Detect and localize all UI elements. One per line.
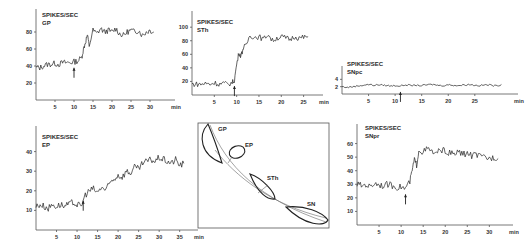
y-tick-label: 30 (26, 168, 32, 174)
y-tick-label: 4 (335, 76, 339, 82)
y-tick-label: 40 (26, 149, 32, 155)
units-label: SPIKES/SEC (42, 12, 79, 18)
y-tick-label: 2 (335, 84, 338, 90)
y-tick-label: 20 (182, 78, 188, 84)
firing-rate-trace (36, 155, 184, 211)
y-tick-label: 30 (347, 181, 353, 187)
x-tick-label: 25 (472, 98, 478, 104)
units-label: SPIKES/SEC (365, 125, 402, 131)
anatomy-diagram: GP EP STh SN (198, 123, 329, 228)
x-tick-label: 15 (95, 234, 101, 240)
x-unit-label: min (319, 99, 329, 105)
ep-nucleus (227, 144, 246, 161)
x-unit-label: min (514, 98, 524, 104)
arrow-head-icon (233, 86, 236, 89)
x-tick-label: 30 (156, 234, 162, 240)
x-tick-label: 10 (234, 99, 240, 105)
region-label: EP (42, 142, 50, 148)
x-tick-label: 15 (420, 229, 426, 235)
chart-panel-sn_lower: SPIKES/SECSNpr10203040506051015202530min (347, 124, 520, 235)
x-tick-label: 15 (419, 98, 425, 104)
y-tick-label: 50 (347, 154, 353, 160)
y-tick-label: 60 (347, 141, 353, 147)
x-tick-label: 15 (256, 99, 262, 105)
y-tick-label: 40 (26, 63, 32, 69)
region-label: STh (197, 27, 209, 33)
chart-panel-gp: SPIKES/SECGP2040608051015202530min (26, 9, 182, 110)
chart-panel-sn_upper: SPIKES/SECSNpc24510152025min (335, 61, 524, 104)
x-tick-label: 10 (74, 234, 80, 240)
x-tick-label: 20 (442, 229, 448, 235)
units-label: SPIKES/SEC (347, 61, 384, 67)
x-tick-label: 35 (177, 234, 183, 240)
firing-rate-trace (342, 84, 501, 88)
arrow-head-icon (404, 194, 407, 197)
units-label: SPIKES/SEC (42, 134, 79, 140)
x-unit-label: min (171, 104, 181, 110)
x-tick-label: 25 (464, 229, 470, 235)
figure-canvas: SPIKES/SECGP2040608051015202530minSPIKES… (0, 0, 531, 250)
x-tick-label: 20 (109, 104, 115, 110)
diagram-frame (198, 123, 329, 228)
sth-label: STh (267, 175, 279, 181)
x-tick-label: 20 (115, 234, 121, 240)
fiber-path-2 (215, 150, 326, 218)
sn-label: SN (307, 201, 315, 207)
x-tick-label: 5 (213, 99, 216, 105)
x-tick-label: 20 (278, 99, 284, 105)
y-tick-label: 10 (347, 208, 353, 214)
x-tick-label: 25 (301, 99, 307, 105)
x-unit-label: min (194, 234, 204, 240)
y-tick-label: 80 (26, 29, 32, 35)
y-tick-label: 40 (182, 65, 188, 71)
x-tick-label: 15 (90, 104, 96, 110)
region-label: GP (42, 20, 51, 26)
x-tick-label: 20 (445, 98, 451, 104)
sn-nucleus (286, 207, 328, 224)
y-tick-label: 100 (179, 24, 188, 30)
y-tick-label: 40 (347, 168, 353, 174)
y-tick-label: 10 (26, 207, 32, 213)
units-label: SPIKES/SEC (197, 19, 234, 25)
x-tick-label: 30 (486, 229, 492, 235)
chart-panel-ep: SPIKES/SECEP102030405101520253035min (26, 126, 205, 240)
firing-rate-trace (357, 147, 498, 190)
arrow-head-icon (399, 92, 402, 95)
x-tick-label: 5 (55, 234, 58, 240)
x-tick-label: 25 (136, 234, 142, 240)
x-tick-label: 10 (392, 98, 398, 104)
firing-rate-trace (36, 28, 154, 70)
x-tick-label: 5 (367, 98, 370, 104)
x-tick-label: 30 (147, 104, 153, 110)
fiber-path (210, 125, 326, 222)
ep-label: EP (245, 142, 253, 148)
y-tick-label: 20 (347, 195, 353, 201)
x-tick-label: 5 (378, 229, 381, 235)
arrow-head-icon (73, 68, 76, 71)
y-tick-label: 20 (26, 80, 32, 86)
arrow-head-icon (82, 201, 85, 204)
x-tick-label: 5 (53, 104, 56, 110)
x-tick-label: 10 (398, 229, 404, 235)
firing-rate-trace (192, 35, 308, 87)
y-tick-label: 60 (26, 46, 32, 52)
y-tick-label: 60 (182, 51, 188, 57)
gp-label: GP (218, 126, 227, 132)
region-label: SNpc (347, 69, 363, 75)
y-tick-label: 20 (26, 188, 32, 194)
x-tick-label: 10 (71, 104, 77, 110)
x-unit-label: min (509, 229, 519, 235)
y-tick-label: 80 (182, 38, 188, 44)
x-tick-label: 25 (128, 104, 134, 110)
region-label: SNpr (365, 133, 380, 139)
chart-panel-sth: SPIKES/SECSTh20406080100510152025min (179, 11, 330, 105)
